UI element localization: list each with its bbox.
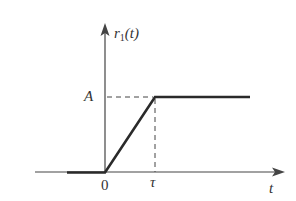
x-axis-label: t [269, 181, 273, 196]
signal-curve [67, 97, 250, 173]
y-label-argument: (t) [125, 25, 139, 41]
level-a-label: A [84, 89, 93, 104]
waveform-plot [0, 0, 296, 201]
waveform-diagram: r1(t) A 0 τ t [0, 0, 296, 201]
tau-label: τ [150, 175, 155, 190]
y-axis-label: r1(t) [114, 26, 139, 43]
origin-label: 0 [101, 178, 109, 193]
